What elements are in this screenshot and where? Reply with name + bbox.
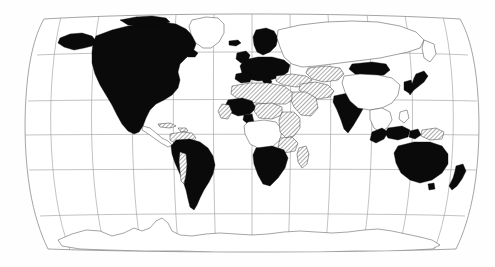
land-tasmania xyxy=(428,183,435,190)
world-map-figure xyxy=(0,0,495,267)
world-map-svg xyxy=(0,0,495,267)
land-sahel xyxy=(254,103,282,119)
